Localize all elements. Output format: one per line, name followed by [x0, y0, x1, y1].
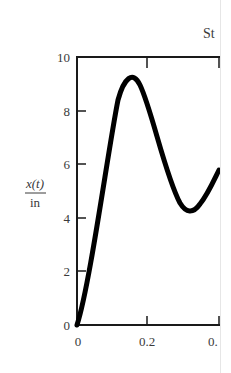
- y-axis-label-numerator: x(t): [25, 176, 44, 191]
- y-axis-label-denominator: in: [30, 195, 41, 210]
- y-tick-label: 8: [64, 104, 71, 119]
- data-series-line: [77, 77, 219, 325]
- y-tick-label: 10: [57, 50, 70, 65]
- y-ticks: [77, 111, 86, 271]
- x-tick-label: 0.: [208, 334, 218, 349]
- y-tick-label: 6: [64, 157, 71, 172]
- page-margin: [221, 0, 231, 373]
- chart-title: St: [203, 26, 215, 41]
- chart-canvas: St 0 2 4 6 8 10 0 0.2 0. x(t) in: [0, 0, 231, 373]
- y-tick-label: 0: [64, 318, 71, 333]
- x-tick-label: 0.2: [139, 334, 155, 349]
- y-tick-label: 4: [64, 211, 71, 226]
- x-tick-label: 0: [75, 334, 82, 349]
- y-tick-label: 2: [64, 264, 71, 279]
